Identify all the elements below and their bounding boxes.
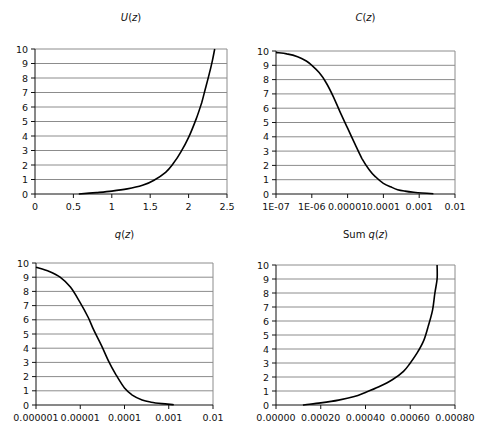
y-tick-label: 4 — [23, 343, 29, 354]
x-tick-label: 0.0001 — [108, 412, 141, 423]
chart-title: U(z) — [121, 12, 141, 23]
x-tick-label: 0.000001 — [13, 412, 58, 423]
y-tick-label: 7 — [263, 302, 269, 313]
y-tick-label: 10 — [257, 46, 269, 57]
x-tick-label: 0.01 — [444, 201, 465, 212]
x-tick-label: 0.00060 — [391, 412, 430, 423]
y-tick-label: 3 — [263, 358, 269, 369]
y-tick-label: 9 — [263, 60, 269, 71]
y-tick-label: 1 — [263, 174, 269, 185]
y-tick-label: 3 — [23, 357, 29, 368]
y-tick-label: 2 — [23, 371, 29, 382]
x-tick-label: 0.00040 — [346, 412, 385, 423]
x-axis: 0.0000010.000010.00010.0010.01 — [13, 405, 223, 423]
y-tick-label: 4 — [263, 344, 269, 355]
x-axis: 1E-071E-060.000010.00010.0010.01 — [262, 194, 465, 212]
x-tick-label: 0.0001 — [367, 201, 400, 212]
y-tick-label: 10 — [16, 44, 28, 55]
x-tick-label: 0.00020 — [301, 412, 340, 423]
y-tick-label: 2 — [22, 160, 28, 171]
y-tick-label: 2 — [263, 372, 269, 383]
series-line — [276, 52, 433, 193]
y-tick-label: 6 — [23, 314, 29, 325]
y-tick-label: 4 — [263, 131, 269, 142]
y-tick-label: 0 — [22, 189, 28, 200]
x-tick-label: 0.00080 — [435, 412, 474, 423]
x-tick-label: 1E-06 — [298, 201, 326, 212]
y-tick-label: 8 — [263, 288, 269, 299]
y-tick-label: 3 — [22, 145, 28, 156]
series-line — [36, 267, 174, 404]
y-tick-label: 6 — [22, 102, 28, 113]
chart-canvas: U(z)01234567891000.511.522.5C(z)01234567… — [0, 0, 487, 444]
y-tick-label: 10 — [17, 258, 29, 269]
y-tick-label: 6 — [263, 316, 269, 327]
y-tick-label: 4 — [22, 131, 28, 142]
y-tick-label: 8 — [22, 73, 28, 84]
chart-u-z: U(z)01234567891000.511.522.5 — [16, 12, 235, 212]
x-tick-label: 1E-07 — [262, 201, 290, 212]
y-tick-label: 7 — [23, 300, 29, 311]
chart-title: Sum q(z) — [343, 229, 388, 240]
x-tick-label: 0.00001 — [61, 412, 100, 423]
x-tick-label: 2 — [186, 201, 192, 212]
y-axis: 012345678910 — [17, 258, 213, 411]
y-tick-label: 0 — [263, 189, 269, 200]
x-tick-label: 1.5 — [143, 201, 158, 212]
y-tick-label: 2 — [263, 160, 269, 171]
chart-sum-q-z: Sum q(z)0123456789100.000000.000200.0004… — [256, 229, 474, 423]
y-tick-label: 7 — [263, 88, 269, 99]
y-tick-label: 5 — [22, 116, 28, 127]
y-tick-label: 7 — [22, 87, 28, 98]
x-axis: 0.000000.000200.000400.000600.00080 — [256, 405, 474, 423]
y-tick-label: 9 — [22, 58, 28, 69]
chart-title: C(z) — [355, 12, 375, 23]
y-tick-label: 1 — [23, 385, 29, 396]
y-tick-label: 3 — [263, 146, 269, 157]
x-tick-label: 1 — [109, 201, 115, 212]
x-tick-label: 0.01 — [202, 412, 223, 423]
y-tick-label: 5 — [263, 117, 269, 128]
x-tick-label: 0.00001 — [328, 201, 367, 212]
y-tick-label: 8 — [23, 286, 29, 297]
y-tick-label: 1 — [263, 386, 269, 397]
x-tick-label: 0 — [32, 201, 38, 212]
y-tick-label: 9 — [23, 272, 29, 283]
y-tick-label: 6 — [263, 103, 269, 114]
y-tick-label: 5 — [263, 330, 269, 341]
x-axis: 00.511.522.5 — [32, 194, 235, 212]
x-tick-label: 0.001 — [155, 412, 182, 423]
y-tick-label: 9 — [263, 274, 269, 285]
x-tick-label: 0.5 — [66, 201, 81, 212]
y-tick-label: 0 — [263, 400, 269, 411]
chart-title: q(z) — [115, 229, 135, 240]
y-tick-label: 0 — [23, 400, 29, 411]
y-tick-label: 5 — [23, 329, 29, 340]
y-tick-label: 1 — [22, 174, 28, 185]
x-tick-label: 0.001 — [406, 201, 433, 212]
x-tick-label: 0.00000 — [256, 412, 295, 423]
chart-q-z: q(z)0123456789100.0000010.000010.00010.0… — [13, 229, 223, 423]
x-tick-label: 2.5 — [219, 201, 234, 212]
y-tick-label: 8 — [263, 74, 269, 85]
y-tick-label: 10 — [257, 260, 269, 271]
chart-c-z: C(z)0123456789101E-071E-060.000010.00010… — [257, 12, 466, 212]
y-axis: 012345678910 — [257, 46, 455, 200]
